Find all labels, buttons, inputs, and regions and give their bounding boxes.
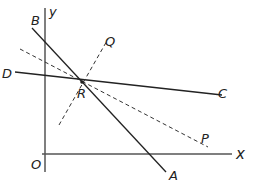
line-ba bbox=[32, 28, 166, 172]
label-point-a: A bbox=[168, 168, 178, 183]
label-y-axis: y bbox=[48, 4, 57, 19]
line-rp-dashed bbox=[20, 49, 208, 147]
label-point-r: R bbox=[77, 86, 86, 101]
label-point-p: P bbox=[201, 131, 209, 146]
label-point-c: C bbox=[218, 86, 228, 101]
point-r-marker bbox=[80, 80, 84, 84]
label-point-q: Q bbox=[105, 34, 115, 49]
line-dc bbox=[15, 72, 222, 95]
label-point-b: B bbox=[31, 13, 40, 28]
label-x-axis: x bbox=[235, 145, 245, 163]
geometry-diagram: y x O B D Q R C P A bbox=[0, 0, 253, 187]
label-origin: O bbox=[31, 157, 41, 172]
label-point-d: D bbox=[2, 66, 12, 81]
